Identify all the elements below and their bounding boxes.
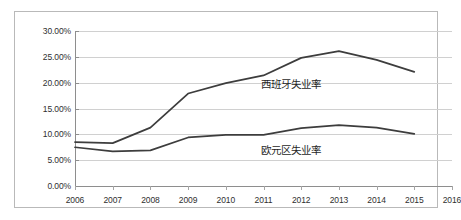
x-tick-label: 2012: [292, 196, 311, 205]
x-tick-label: 2008: [141, 196, 160, 205]
series-label-spain: 西班牙失业率: [261, 79, 321, 90]
y-tick-mark: [75, 109, 79, 110]
x-tick-label: 2011: [255, 196, 273, 205]
y-tick-label: 20.00%: [43, 79, 71, 88]
x-tick-label: 2016: [443, 196, 461, 205]
x-tick-mark: [150, 186, 151, 190]
x-tick-mark: [339, 186, 340, 190]
y-tick-label: 25.00%: [43, 53, 71, 62]
x-tick-mark: [414, 186, 415, 190]
series-lines: [75, 31, 452, 186]
y-tick-label: 10.00%: [43, 130, 71, 139]
y-tick-mark: [75, 57, 79, 58]
x-tick-mark: [452, 186, 453, 190]
x-tick-label: 2006: [66, 196, 85, 205]
chart-frame: 0.00%5.00%10.00%15.00%20.00%25.00%30.00%…: [14, 11, 438, 208]
x-tick-mark: [377, 186, 378, 190]
plot-area: [75, 31, 452, 186]
y-axis-labels: 0.00%5.00%10.00%15.00%20.00%25.00%30.00%: [15, 31, 71, 186]
x-tick-mark: [226, 186, 227, 190]
x-tick-label: 2015: [405, 196, 424, 205]
x-tick-mark: [113, 186, 114, 190]
y-tick-mark: [75, 31, 79, 32]
x-tick-mark: [75, 186, 76, 190]
x-tick-mark: [188, 186, 189, 190]
x-tick-label: 2010: [217, 196, 236, 205]
y-tick-label: 15.00%: [43, 105, 71, 114]
x-axis-labels: 2006200720082009201020112012201320142015…: [75, 190, 452, 208]
y-tick-label: 0.00%: [47, 182, 71, 191]
x-tick-label: 2013: [330, 196, 349, 205]
x-tick-label: 2009: [179, 196, 198, 205]
x-tick-label: 2007: [103, 196, 122, 205]
series-line-spain: [75, 51, 414, 143]
x-tick-label: 2014: [367, 196, 386, 205]
x-tick-mark: [301, 186, 302, 190]
y-tick-mark: [75, 134, 79, 135]
y-tick-mark: [75, 160, 79, 161]
y-tick-label: 30.00%: [43, 27, 71, 36]
y-tick-mark: [75, 83, 79, 84]
series-label-eurozone: 欧元区失业率: [261, 145, 321, 156]
x-tick-mark: [264, 186, 265, 190]
y-tick-label: 5.00%: [47, 156, 71, 165]
